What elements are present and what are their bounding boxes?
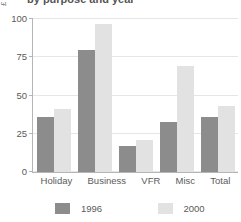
- x-axis-labels: HolidayBusinessVFRMiscTotal: [33, 175, 238, 186]
- x-axis-label-total: Total: [210, 175, 230, 186]
- bar-group-vfr: [119, 19, 153, 172]
- bar-misc-2000: [177, 66, 194, 172]
- y-tick-label-100: 100: [11, 13, 27, 24]
- bar-total-2000: [218, 106, 235, 172]
- chart-title: by purpose and year: [27, 0, 135, 5]
- y-tick-mark-0: [29, 171, 33, 172]
- x-axis-label-holiday: Holiday: [41, 175, 73, 186]
- bar-total-1996: [201, 117, 218, 172]
- bar-chart-figure: by purpose and year £ 0255075100 Holiday…: [0, 0, 241, 222]
- y-tick-mark-50: [29, 95, 33, 96]
- bar-vfr-2000: [136, 140, 153, 172]
- x-axis-label-vfr: VFR: [141, 175, 160, 186]
- bar-misc-1996: [160, 122, 177, 172]
- legend-label-2000: 2000: [184, 203, 205, 214]
- x-axis-label-business: Business: [88, 175, 127, 186]
- y-tick-mark-100: [29, 18, 33, 19]
- bar-holiday-2000: [54, 109, 71, 172]
- y-tick-label-0: 0: [22, 166, 27, 177]
- y-tick-mark-75: [29, 56, 33, 57]
- y-axis-label: £: [0, 2, 8, 6]
- legend-swatch-2000: [158, 203, 173, 214]
- bar-business-2000: [95, 24, 112, 172]
- legend-item-2000: 2000: [136, 203, 239, 214]
- bar-vfr-1996: [119, 146, 136, 172]
- legend-label-1996: 1996: [81, 203, 102, 214]
- bars-layer: [34, 19, 238, 172]
- x-axis-label-misc: Misc: [176, 175, 196, 186]
- y-tick-label-50: 50: [16, 89, 27, 100]
- y-tick-label-75: 75: [16, 51, 27, 62]
- bar-group-holiday: [37, 19, 71, 172]
- y-tick-label-25: 25: [16, 127, 27, 138]
- y-tick-mark-25: [29, 133, 33, 134]
- bar-business-1996: [78, 50, 95, 172]
- legend-item-1996: 1996: [33, 203, 136, 214]
- legend-swatch-1996: [55, 203, 70, 214]
- bar-group-total: [201, 19, 235, 172]
- bar-holiday-1996: [37, 117, 54, 172]
- chart-legend: 19962000: [33, 203, 238, 214]
- plot-area: 0255075100: [32, 19, 238, 173]
- bar-group-business: [78, 19, 112, 172]
- bar-group-misc: [160, 19, 194, 172]
